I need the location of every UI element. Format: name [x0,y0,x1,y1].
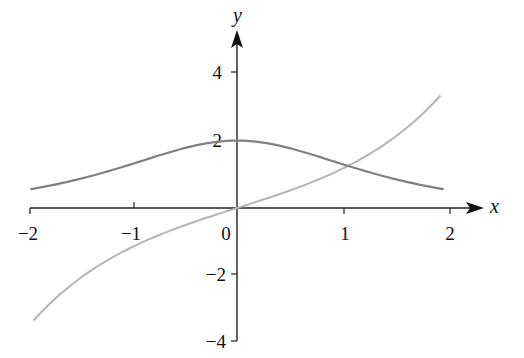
chart-canvas: −2 −1 0 1 2 4 2 −2 −4 x y [0,0,524,358]
x-tick-label: 0 [221,223,231,244]
y-tick-label: −4 [206,331,227,352]
x-tick-label: 2 [445,223,455,244]
y-tick-label: −2 [206,264,226,285]
x-tick-label: −1 [121,223,141,244]
y-ticks [231,72,237,341]
x-tick-label: 1 [340,223,350,244]
x-axis-label: x [489,195,499,217]
x-tick-label: −2 [18,223,38,244]
y-tick-label: 4 [213,62,223,83]
y-axis-label: y [231,4,242,27]
